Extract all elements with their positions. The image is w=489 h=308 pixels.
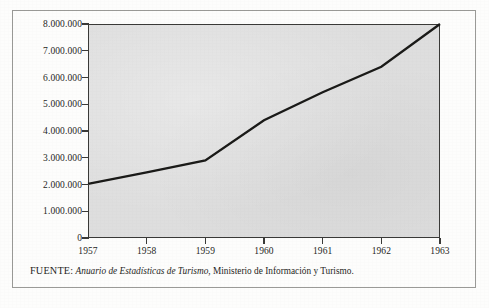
source-label: FUENTE: <box>30 265 73 276</box>
x-tick-mark <box>322 238 323 244</box>
y-tick-mark <box>82 104 89 105</box>
y-tick-label: 6.000.000 <box>8 73 82 83</box>
y-tick-mark <box>82 23 89 24</box>
y-tick-mark <box>82 211 89 212</box>
y-tick-label: 0 <box>8 233 82 243</box>
x-tick-mark <box>146 238 147 244</box>
x-tick-mark <box>381 238 382 244</box>
source-publisher: , Ministerio de Información y Turismo. <box>208 266 353 276</box>
y-tick-label: 4.000.000 <box>8 126 82 136</box>
y-tick-mark <box>82 77 89 78</box>
y-axis: 01.000.0002.000.0003.000.0004.000.0005.0… <box>6 0 82 308</box>
figure-root: 01.000.0002.000.0003.000.0004.000.0005.0… <box>0 0 489 308</box>
source-note: FUENTE: Anuario de Estadísticas de Turis… <box>30 265 460 277</box>
x-tick-mark <box>205 238 206 244</box>
y-tick-label: 3.000.000 <box>8 153 82 163</box>
y-tick-label: 7.000.000 <box>8 46 82 56</box>
x-tick-label: 1961 <box>293 246 353 257</box>
source-title: Anuario de Estadísticas de Turismo <box>76 266 209 276</box>
x-tick-label: 1957 <box>58 246 118 257</box>
x-tick-label: 1958 <box>117 246 177 257</box>
line-chart: 01.000.0002.000.0003.000.0004.000.0005.0… <box>0 0 489 308</box>
series-line <box>88 24 440 184</box>
caption-sliver <box>150 293 380 307</box>
y-tick-label: 2.000.000 <box>8 180 82 190</box>
y-tick-label: 8.000.000 <box>8 19 82 29</box>
x-tick-label: 1963 <box>410 246 470 257</box>
x-tick-mark <box>439 238 440 244</box>
y-tick-mark <box>82 50 89 51</box>
x-tick-label: 1962 <box>351 246 411 257</box>
series-viajeros <box>88 24 440 238</box>
y-tick-mark <box>82 157 89 158</box>
y-tick-label: 5.000.000 <box>8 99 82 109</box>
x-tick-label: 1959 <box>175 246 235 257</box>
y-tick-mark <box>82 184 89 185</box>
y-tick-mark <box>82 237 89 238</box>
x-tick-mark <box>263 238 264 244</box>
y-tick-label: 1.000.000 <box>8 206 82 216</box>
x-tick-label: 1960 <box>234 246 294 257</box>
y-tick-mark <box>82 130 89 131</box>
